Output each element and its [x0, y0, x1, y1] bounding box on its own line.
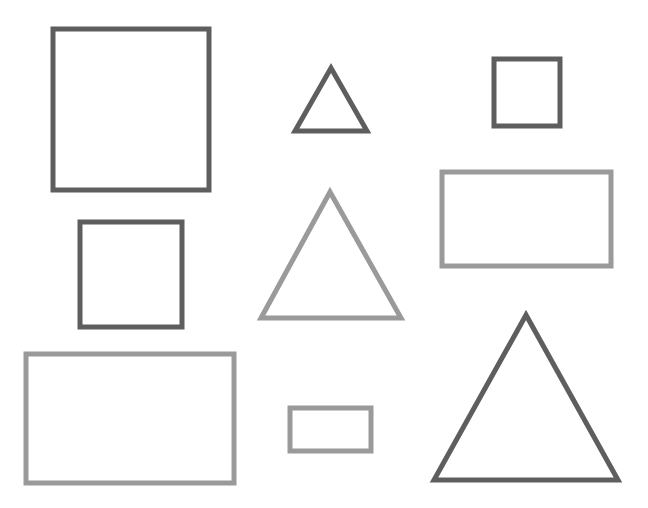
rectangle-small-light-shape [290, 408, 371, 451]
square-medium-dark-shape [80, 222, 182, 327]
square-small-dark-shape [494, 59, 560, 126]
rectangle-large-light-shape [26, 354, 234, 483]
shapes-canvas [0, 0, 648, 508]
triangle-large-dark-shape [434, 315, 618, 480]
rectangle-medium-light-shape [442, 172, 611, 266]
triangle-small-dark-shape [295, 68, 367, 131]
triangle-medium-light-shape [261, 192, 401, 318]
square-large-dark-shape [53, 29, 209, 190]
